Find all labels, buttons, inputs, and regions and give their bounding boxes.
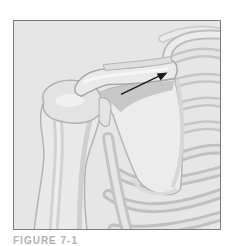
figure-caption: FIGURE 7-1 (13, 236, 78, 246)
anatomy-figure (13, 20, 221, 230)
shoulder-illustration (14, 21, 220, 229)
